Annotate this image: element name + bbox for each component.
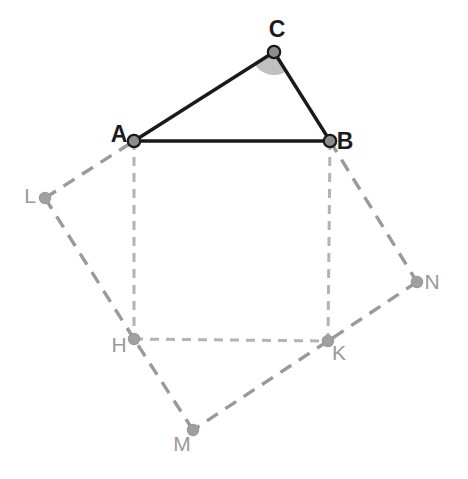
vertex-dot-c[interactable] xyxy=(268,46,280,58)
vertex-dot-h[interactable] xyxy=(128,333,139,344)
geometry-figure: ABCLNHKM xyxy=(0,0,468,479)
vertex-dot-a[interactable] xyxy=(128,135,140,147)
vertex-label-b: B xyxy=(337,128,354,154)
vertex-label-k: K xyxy=(332,341,346,364)
vertex-label-m: M xyxy=(173,432,191,455)
vertex-label-l: L xyxy=(24,184,36,207)
geometry-canvas: ABCLNHKM xyxy=(0,0,468,479)
vertex-label-n: N xyxy=(424,270,439,293)
vertex-label-a: A xyxy=(111,121,128,147)
vertex-dot-b[interactable] xyxy=(324,135,336,147)
vertex-label-c: C xyxy=(269,16,286,42)
vertex-dot-l[interactable] xyxy=(39,192,50,203)
vertex-dot-n[interactable] xyxy=(411,276,422,287)
vertex-label-h: H xyxy=(111,333,126,356)
